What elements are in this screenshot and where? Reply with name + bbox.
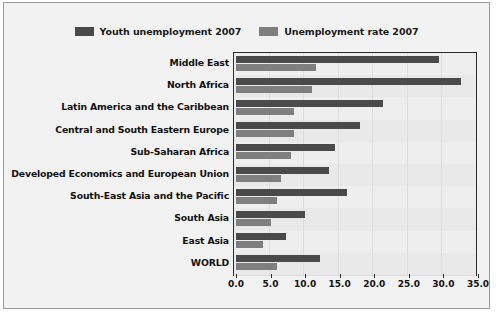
chart-row: South-East Asia and the Pacific — [4, 185, 475, 207]
category-label: Latin America and the Caribbean — [61, 96, 229, 118]
bar-unemployment-rate — [236, 64, 316, 71]
bar-youth-unemployment — [236, 233, 286, 240]
bar-youth-unemployment — [236, 144, 335, 151]
chart-row: Sub-Saharan Africa — [4, 141, 475, 163]
bar-unemployment-rate — [236, 86, 312, 93]
bar-youth-unemployment — [236, 167, 329, 174]
bar-unemployment-rate — [236, 219, 271, 226]
x-tick-mark — [305, 274, 306, 278]
bar-youth-unemployment — [236, 100, 383, 107]
chart-row: South Asia — [4, 207, 475, 229]
bar-unemployment-rate — [236, 197, 277, 204]
bar-unemployment-rate — [236, 175, 281, 182]
legend-label-unemployment-rate: Unemployment rate 2007 — [284, 26, 418, 37]
legend-entry-youth-unemployment: Youth unemployment 2007 — [75, 26, 242, 37]
bar-youth-unemployment — [236, 189, 347, 196]
x-tick-mark — [340, 274, 341, 278]
x-tick-mark — [374, 274, 375, 278]
x-tick-label: 35.0 — [467, 279, 489, 289]
bar-youth-unemployment — [236, 211, 305, 218]
x-tick-label: 0.0 — [228, 279, 244, 289]
category-label: Central and South Eastern Europe — [55, 119, 229, 141]
category-label: South Asia — [174, 207, 229, 229]
category-label: North Africa — [167, 74, 229, 96]
chart-row: East Asia — [4, 230, 475, 252]
x-tick-label: 5.0 — [263, 279, 279, 289]
chart-row: North Africa — [4, 74, 475, 96]
bar-youth-unemployment — [236, 122, 360, 129]
bar-youth-unemployment — [236, 255, 320, 262]
chart-rows: Middle EastNorth AfricaLatin America and… — [4, 52, 475, 274]
legend-swatch-youth-unemployment — [75, 27, 94, 36]
x-tick-label: 20.0 — [363, 279, 385, 289]
bar-youth-unemployment — [236, 78, 461, 85]
chart-row: WORLD — [4, 252, 475, 274]
x-tick-mark — [478, 274, 479, 278]
chart-row: Latin America and the Caribbean — [4, 96, 475, 118]
category-label: South-East Asia and the Pacific — [70, 185, 229, 207]
x-tick-mark — [236, 274, 237, 278]
x-axis: 0.05.010.015.020.025.030.035.0 — [4, 274, 475, 298]
legend-label-youth-unemployment: Youth unemployment 2007 — [100, 26, 242, 37]
bar-unemployment-rate — [236, 263, 277, 270]
chart-row: Middle East — [4, 52, 475, 74]
category-label: Developed Economics and European Union — [11, 163, 229, 185]
chart-legend: Youth unemployment 2007 Unemployment rat… — [4, 26, 489, 37]
x-tick-label: 30.0 — [432, 279, 454, 289]
category-label: WORLD — [191, 252, 229, 274]
bar-unemployment-rate — [236, 108, 294, 115]
x-tick-label: 15.0 — [329, 279, 351, 289]
x-tick-mark — [409, 274, 410, 278]
chart-row: Developed Economics and European Union — [4, 163, 475, 185]
bar-unemployment-rate — [236, 152, 291, 159]
x-tick-label: 10.0 — [294, 279, 316, 289]
x-tick-mark — [271, 274, 272, 278]
x-tick-mark — [443, 274, 444, 278]
legend-swatch-unemployment-rate — [259, 27, 278, 36]
category-label: East Asia — [182, 230, 229, 252]
chart-row: Central and South Eastern Europe — [4, 119, 475, 141]
legend-entry-unemployment-rate: Unemployment rate 2007 — [259, 26, 418, 37]
bar-unemployment-rate — [236, 241, 263, 248]
category-label: Sub-Saharan Africa — [131, 141, 230, 163]
bar-youth-unemployment — [236, 56, 439, 63]
chart-card: Youth unemployment 2007 Unemployment rat… — [3, 2, 490, 309]
x-tick-label: 25.0 — [398, 279, 420, 289]
bar-unemployment-rate — [236, 130, 294, 137]
category-label: Middle East — [170, 52, 229, 74]
